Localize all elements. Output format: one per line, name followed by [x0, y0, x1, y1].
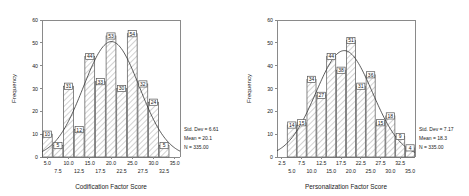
- x-tick-label-upper: 5.0: [44, 160, 51, 166]
- bar-value-label: 51: [348, 37, 354, 43]
- y-axis-title: Frequency: [10, 73, 17, 103]
- histogram-bar: [337, 70, 346, 157]
- histogram-bar: [95, 82, 105, 157]
- histogram-bar: [317, 95, 326, 157]
- bar-value-label: 54: [129, 31, 135, 37]
- x-tick-label-lower: 15.0: [326, 168, 336, 174]
- y-axis-title: Frequency: [245, 73, 252, 103]
- x-tick-label-lower: 7.5: [54, 168, 61, 174]
- y-tick-label: 0: [270, 154, 273, 160]
- x-tick-label-upper: 15.0: [85, 160, 95, 166]
- bar-value-label: 10: [45, 131, 51, 137]
- histogram-bar: [74, 130, 84, 157]
- x-tick-label-upper: 22.5: [356, 160, 366, 166]
- bar-value-label: 31: [358, 83, 364, 89]
- y-tick-label: 60: [267, 17, 273, 23]
- x-tick-label-lower: 22.5: [117, 168, 127, 174]
- histogram-figure: 0102030405060Frequency105311244335330543…: [0, 0, 469, 196]
- chart-panel-codification: 0102030405060Frequency105311244335330543…: [0, 0, 234, 196]
- x-tick-label-lower: 17.5: [95, 168, 105, 174]
- y-tick-label: 50: [32, 40, 38, 46]
- bar-value-label: 9: [399, 133, 402, 139]
- y-tick-label: 50: [267, 40, 273, 46]
- y-tick-label: 40: [267, 63, 273, 69]
- y-tick-label: 20: [32, 108, 38, 114]
- bar-value-label: 5: [163, 142, 166, 148]
- bar-value-label: 30: [119, 85, 125, 91]
- x-tick-label-upper: 10.0: [63, 160, 73, 166]
- x-tick-label-lower: 30.0: [385, 168, 395, 174]
- x-tick-label-lower: 12.5: [74, 168, 84, 174]
- x-tick-label-upper: 35.0: [170, 160, 180, 166]
- x-tick-label-lower: 5.0: [288, 168, 295, 174]
- histogram-bar: [106, 36, 116, 157]
- x-tick-label-lower: 25.0: [366, 168, 376, 174]
- personalization-histogram: 0102030405060Frequency141534274438513136…: [235, 0, 469, 196]
- x-tick-label-lower: 27.5: [138, 168, 148, 174]
- y-tick-label: 10: [267, 131, 273, 137]
- y-tick-label: 0: [35, 154, 38, 160]
- statistics-annotation: N = 335.00: [419, 144, 444, 150]
- x-tick-label-upper: 27.5: [375, 160, 385, 166]
- histogram-bar: [127, 34, 137, 157]
- x-tick-label-lower: 20.0: [346, 168, 356, 174]
- x-tick-label-upper: 2.5: [278, 160, 285, 166]
- histogram-bar: [356, 86, 365, 157]
- histogram-bar: [307, 79, 316, 157]
- codification-histogram: 0102030405060Frequency105311244335330543…: [0, 0, 234, 196]
- bar-value-label: 44: [328, 53, 334, 59]
- x-tick-label-lower: 35.0: [405, 168, 415, 174]
- y-tick-label: 20: [267, 108, 273, 114]
- y-tick-label: 30: [32, 86, 38, 92]
- bar-value-label: 33: [98, 79, 104, 85]
- bar-value-label: 53: [108, 33, 114, 39]
- histogram-bar: [117, 89, 127, 158]
- x-tick-label-upper: 20.0: [106, 160, 116, 166]
- x-tick-label-upper: 12.5: [316, 160, 326, 166]
- statistics-annotation: N = 335.00: [184, 144, 209, 150]
- histogram-bar: [386, 116, 395, 157]
- x-tick-label-lower: 10.0: [306, 168, 316, 174]
- chart-panel-personalization: 0102030405060Frequency141534274438513136…: [235, 0, 469, 196]
- bar-value-label: 24: [151, 99, 157, 105]
- bar-value-label: 15: [378, 120, 384, 126]
- bar-value-label: 5: [57, 142, 60, 148]
- y-tick-label: 10: [32, 131, 38, 137]
- statistics-annotation: Std. Dev = 6.61: [184, 126, 219, 132]
- y-tick-label: 60: [32, 17, 38, 23]
- x-tick-label-upper: 7.5: [298, 160, 305, 166]
- statistics-annotation: Mean = 18.3: [419, 135, 447, 141]
- histogram-bar: [327, 57, 336, 157]
- x-tick-label-upper: 17.5: [336, 160, 346, 166]
- x-tick-label-upper: 32.5: [395, 160, 405, 166]
- bar-value-label: 18: [388, 113, 394, 119]
- x-tick-label-upper: 30.0: [148, 160, 158, 166]
- x-axis-title: Personalization Factor Score: [305, 183, 387, 190]
- bar-value-label: 15: [299, 120, 305, 126]
- histogram-bar: [346, 41, 355, 157]
- x-tick-label-lower: 32.5: [159, 168, 169, 174]
- bar-value-label: 14: [289, 122, 295, 128]
- bar-value-label: 44: [87, 53, 93, 59]
- y-tick-label: 40: [32, 63, 38, 69]
- bar-value-label: 4: [409, 145, 412, 151]
- bar-value-label: 32: [140, 81, 146, 87]
- bar-value-label: 36: [368, 72, 374, 78]
- x-axis-title: Codification Factor Score: [75, 183, 147, 190]
- histogram-bar: [366, 75, 375, 157]
- statistics-annotation: Std. Dev = 7.17: [419, 126, 454, 132]
- bar-value-label: 31: [66, 83, 72, 89]
- bar-value-label: 38: [338, 67, 344, 73]
- histogram-bar: [149, 102, 159, 157]
- bar-value-label: 34: [309, 76, 315, 82]
- bar-value-label: 27: [319, 92, 325, 98]
- histogram-bar: [376, 123, 385, 157]
- y-tick-label: 30: [267, 86, 273, 92]
- x-tick-label-upper: 25.0: [127, 160, 137, 166]
- statistics-annotation: Mean = 20.1: [184, 135, 212, 141]
- bar-value-label: 12: [76, 127, 82, 133]
- histogram-bar: [287, 125, 296, 157]
